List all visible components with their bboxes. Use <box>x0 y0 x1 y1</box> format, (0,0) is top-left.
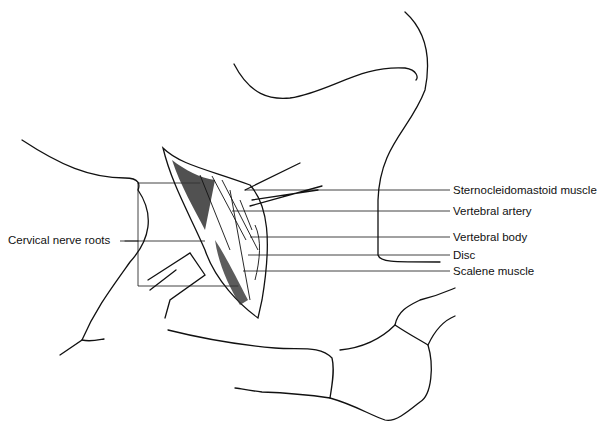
label-vertebral-artery: Vertebral artery <box>453 205 532 218</box>
label-disc: Disc <box>453 249 475 262</box>
jaw-outline <box>234 64 417 98</box>
label-vertebral-body: Vertebral body <box>453 231 527 244</box>
shoulder-contour <box>22 140 148 355</box>
anatomy-diagram: Sternocleidomastoid muscle Vertebral art… <box>0 0 608 432</box>
label-sternocleidomastoid-muscle: Sternocleidomastoid muscle <box>453 184 597 197</box>
scapula <box>330 325 431 420</box>
neck-posterior-contour <box>378 12 440 262</box>
retractor-upper <box>245 163 322 206</box>
leader-lines <box>120 190 450 271</box>
label-cervical-nerve-roots: Cervical nerve roots <box>8 234 110 247</box>
label-scalene-muscle: Scalene muscle <box>453 265 534 278</box>
clavicle <box>168 330 333 398</box>
